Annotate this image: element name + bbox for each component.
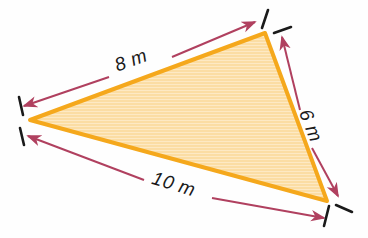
tick-mark-8m-right <box>262 10 268 28</box>
figure-canvas: 8 m 6 m 10 m <box>0 0 368 238</box>
tick-mark-6m-top <box>274 27 291 33</box>
dimension-line-10m-right <box>212 198 324 218</box>
triangle-diagram: 8 m 6 m 10 m <box>0 0 368 238</box>
dimension-label-10m: 10 m <box>150 167 198 200</box>
tick-mark-8m-left <box>19 97 23 115</box>
dimension-label-8m: 8 m <box>112 44 150 75</box>
tick-mark-10m-right <box>324 206 329 226</box>
tick-mark-6m-bottom <box>336 205 352 212</box>
tick-mark-10m-left <box>20 128 24 145</box>
